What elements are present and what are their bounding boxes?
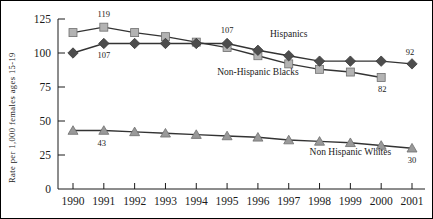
data-point-square	[69, 29, 77, 37]
x-tick-label: 2000	[370, 195, 393, 207]
y-tick-label: 0	[45, 183, 51, 195]
x-tick-label: 1992	[123, 195, 146, 207]
label-whites-1990: 43	[98, 138, 107, 148]
data-point-diamond	[99, 38, 109, 48]
y-axis-title: Rate per 1,000 females ages 15-19	[7, 52, 17, 183]
y-tick-label: 100	[34, 47, 52, 59]
data-point-square	[100, 23, 108, 31]
x-tick-label: 1990	[62, 195, 85, 207]
data-point-diamond	[284, 51, 294, 61]
x-tick-label: 2001	[401, 195, 424, 207]
y-axis-title-text: Rate per 1,000 females ages 15-19	[7, 52, 17, 183]
series-line	[73, 131, 412, 149]
label-whites-2001: 30	[408, 155, 417, 165]
data-point-diamond	[376, 56, 386, 66]
label-hispanics-2001: 92	[406, 47, 415, 57]
y-tick-label: 50	[40, 115, 52, 127]
non-hispanic-whites-series-label: Non Hispanic Whites	[310, 147, 392, 157]
point-label-layer: 11910710792824330	[97, 9, 416, 165]
data-point-square	[346, 68, 354, 76]
y-tick-label: 25	[40, 149, 52, 161]
x-axis-tick-marks	[73, 183, 412, 189]
x-tick-label: 1993	[154, 195, 177, 207]
x-tick-label: 1997	[277, 195, 300, 207]
annotation-layer: HispanicsNon-Hispanic BlacksNon Hispanic…	[217, 29, 391, 157]
x-tick-label: 1995	[216, 195, 239, 207]
data-point-diamond	[68, 48, 78, 58]
x-axis-tick-labels: 1990199119921993199419951996199719981999…	[62, 195, 424, 207]
chart-figure: Rate per 1,000 females ages 15-19 025507…	[0, 0, 433, 219]
non-hispanic-blacks-series-label: Non-Hispanic Blacks	[217, 67, 299, 77]
x-tick-label: 1998	[308, 195, 331, 207]
y-tick-label: 75	[40, 81, 52, 93]
x-tick-label: 1999	[339, 195, 362, 207]
data-point-square	[377, 73, 385, 81]
data-point-square	[131, 29, 139, 37]
x-tick-label: 1996	[246, 195, 269, 207]
label-hispanics-1995: 107	[221, 25, 234, 35]
data-point-diamond	[345, 56, 355, 66]
data-point-diamond	[407, 59, 417, 69]
label-blacks-1991: 119	[98, 9, 110, 19]
line-chart: Rate per 1,000 females ages 15-19 025507…	[1, 1, 433, 219]
axis-lines	[58, 19, 425, 189]
y-axis-tick-labels: 0255075100125	[34, 13, 52, 195]
series-line	[73, 43, 412, 63]
data-point-diamond	[129, 38, 139, 48]
data-point-diamond	[314, 56, 324, 66]
label-blacks-2000: 82	[378, 84, 387, 94]
label-hispanics-1991: 107	[97, 50, 110, 60]
series-layer	[68, 23, 417, 152]
hispanics-series-label: Hispanics	[270, 29, 308, 39]
series-hispanics	[68, 38, 417, 69]
y-tick-label: 125	[34, 13, 52, 25]
y-axis-tick-marks	[58, 19, 65, 155]
x-tick-label: 1991	[92, 195, 115, 207]
x-tick-label: 1994	[185, 195, 208, 207]
